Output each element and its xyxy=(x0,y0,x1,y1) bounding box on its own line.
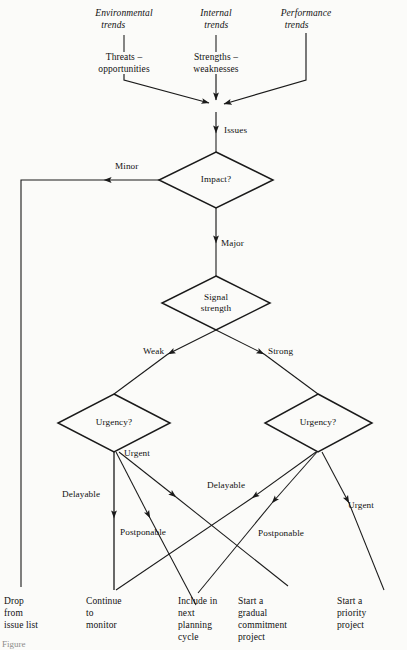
line-right-urgent-tail xyxy=(349,503,384,590)
source-label-environmental: Environmentaltrends xyxy=(95,8,152,31)
edge-label-major: Major xyxy=(221,238,244,250)
edge-label-minor: Minor xyxy=(115,161,138,173)
node-label-urgency-right: Urgency? xyxy=(300,417,336,428)
arrow-threats-to-issues xyxy=(124,74,209,103)
line-right-delayable-tail xyxy=(116,498,252,590)
outcome-start-priority-project: Start apriorityproject xyxy=(337,595,366,631)
outcome-include-in-next-planning-cycle: Include innextplanningcycle xyxy=(178,595,217,643)
arrow-left-postponable xyxy=(116,452,150,518)
edge-label-strong: Strong xyxy=(268,346,293,358)
line-right-postponable-tail xyxy=(198,503,272,593)
figure-caption-partial: Figure xyxy=(0,641,407,650)
arrow-right-delayable xyxy=(252,452,316,498)
outcome-drop-from-issue-list: Dropfromissue list xyxy=(4,595,38,631)
arrow-right-postponable xyxy=(272,452,317,503)
figure-canvas: Environmentaltrends Internaltrends Perfo… xyxy=(0,0,407,650)
node-label-signal-strength: Signalstrength xyxy=(201,292,231,314)
arrow-signal-weak xyxy=(168,330,216,354)
source-label-performance: Performancetrends xyxy=(281,8,332,31)
edge-label-delayable-left: Delayable xyxy=(62,489,100,501)
edge-label-urgent-left: Urgent xyxy=(124,448,150,460)
line-minor-to-drop xyxy=(21,180,104,587)
edge-label-postponable-left: Postponable xyxy=(120,527,166,539)
line-weak-tail xyxy=(114,354,168,394)
edge-label-weak: Weak xyxy=(143,346,164,358)
source-label-internal: Internaltrends xyxy=(200,8,231,31)
node-label-impact: Impact? xyxy=(201,174,231,185)
edge-label-delayable-right: Delayable xyxy=(207,480,245,492)
outcome-start-gradual-commitment-project: Start agradualcommitmentproject xyxy=(238,595,287,643)
node-label-issues: Issues xyxy=(224,125,247,137)
flowchart-lines xyxy=(0,0,407,650)
line-strong-tail xyxy=(264,354,318,394)
outcome-continue-to-monitor: Continuetomonitor xyxy=(86,595,122,631)
arrow-right-urgent xyxy=(322,452,349,503)
line-left-urgent-tail xyxy=(176,497,288,586)
arrow-signal-strong xyxy=(216,330,264,354)
edge-label-urgent-right: Urgent xyxy=(348,500,374,512)
node-label-urgency-left: Urgency? xyxy=(96,417,132,428)
source-output-threats: Threats –opportunities xyxy=(98,52,149,75)
source-output-strengths: Strengths –weaknesses xyxy=(193,52,238,75)
edge-label-postponable-right: Postponable xyxy=(258,528,304,540)
